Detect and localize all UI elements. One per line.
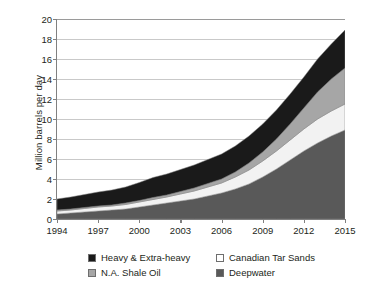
y-tick-label: 12 — [41, 94, 52, 105]
legend-label: Heavy & Extra-heavy — [101, 252, 190, 263]
y-tick-label: 18 — [41, 34, 52, 45]
x-tick-label: 2012 — [293, 225, 314, 236]
legend-item[interactable]: Deepwater — [216, 267, 338, 278]
x-tick-mark — [98, 219, 99, 223]
stacked-area-chart: Million barrels per day 0246810121416182… — [0, 0, 374, 295]
y-tick-label: 14 — [41, 74, 52, 85]
y-tick-mark — [53, 19, 57, 20]
x-tick-mark — [304, 219, 305, 223]
y-tick-mark — [53, 199, 57, 200]
legend-swatch-icon — [88, 269, 96, 277]
y-tick-label: 4 — [47, 174, 52, 185]
legend-label: N.A. Shale Oil — [101, 267, 161, 278]
legend-swatch-icon — [216, 254, 224, 262]
x-tick-label: 2015 — [334, 225, 355, 236]
x-tick-mark — [345, 219, 346, 223]
y-tick-mark — [53, 79, 57, 80]
legend-swatch-icon — [216, 269, 224, 277]
y-tick-mark — [53, 39, 57, 40]
legend-item[interactable]: N.A. Shale Oil — [88, 267, 216, 278]
x-tick-label: 2000 — [129, 225, 150, 236]
x-tick-label: 2006 — [211, 225, 232, 236]
y-tick-label: 2 — [47, 194, 52, 205]
legend-item[interactable]: Canadian Tar Sands — [216, 252, 338, 263]
y-tick-label: 0 — [47, 214, 52, 225]
y-tick-label: 20 — [41, 14, 52, 25]
x-tick-mark — [57, 219, 58, 223]
y-tick-label: 10 — [41, 114, 52, 125]
x-tick-mark — [139, 219, 140, 223]
chart-legend: Heavy & Extra-heavyCanadian Tar SandsN.A… — [88, 250, 338, 280]
legend-label: Deepwater — [229, 267, 275, 278]
x-tick-label: 1997 — [88, 225, 109, 236]
x-tick-mark — [263, 219, 264, 223]
x-tick-mark — [180, 219, 181, 223]
y-tick-mark — [53, 99, 57, 100]
legend-label: Canadian Tar Sands — [229, 252, 315, 263]
y-tick-label: 16 — [41, 54, 52, 65]
y-tick-mark — [53, 59, 57, 60]
x-tick-mark — [222, 219, 223, 223]
x-tick-label: 2003 — [170, 225, 191, 236]
y-tick-mark — [53, 179, 57, 180]
y-tick-mark — [53, 159, 57, 160]
x-tick-label: 1994 — [46, 225, 67, 236]
x-tick-label: 2009 — [252, 225, 273, 236]
area-series-group — [57, 19, 345, 219]
legend-item[interactable]: Heavy & Extra-heavy — [88, 252, 216, 263]
y-tick-label: 6 — [47, 154, 52, 165]
y-tick-label: 8 — [47, 134, 52, 145]
x-axis-line — [56, 219, 345, 220]
plot-area: 02468101214161820 1994199720002003200620… — [57, 19, 345, 219]
legend-swatch-icon — [88, 254, 96, 262]
y-tick-mark — [53, 139, 57, 140]
y-tick-mark — [53, 119, 57, 120]
